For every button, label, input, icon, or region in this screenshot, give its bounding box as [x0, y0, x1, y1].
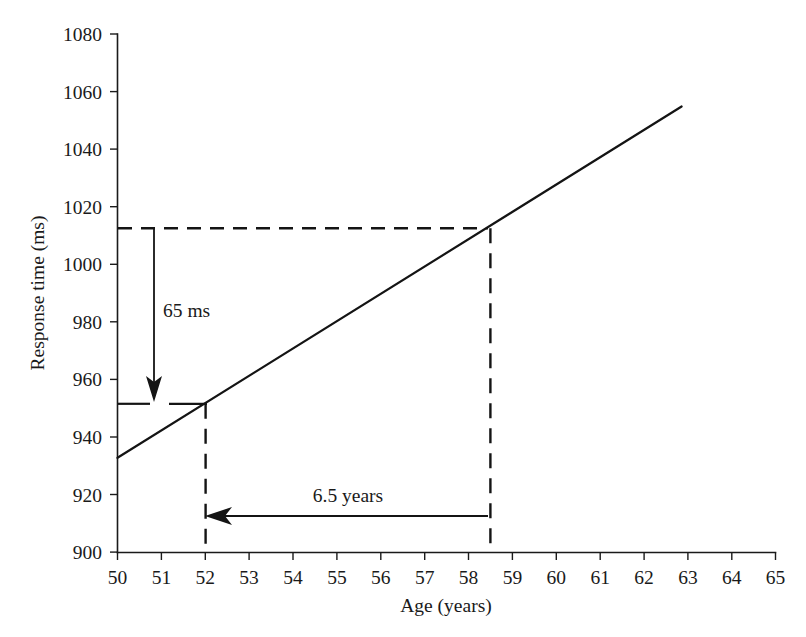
x-tick-label-63: 63: [678, 567, 698, 588]
y-tick-label-920: 920: [73, 485, 102, 506]
x-tick-label-55: 55: [327, 567, 347, 588]
x-axis: 50 51 52 53 54 55 56 57 58 59 60 61 62 6…: [108, 553, 786, 618]
y-tick-label-1020: 1020: [63, 197, 102, 218]
x-axis-title: Age (years): [400, 595, 492, 617]
y-tick-label-940: 940: [73, 427, 102, 448]
annotation-6-5-years-label: 6.5 years: [313, 485, 383, 506]
x-tick-label-65: 65: [766, 567, 786, 588]
y-tick-label-980: 980: [73, 312, 102, 333]
y-tick-label-1080: 1080: [63, 24, 102, 45]
x-tick-label-64: 64: [722, 567, 742, 588]
x-tick-label-59: 59: [503, 567, 523, 588]
x-tick-label-52: 52: [196, 567, 216, 588]
x-axis-ticks: [118, 553, 776, 561]
annotation-65ms-label: 65 ms: [163, 300, 210, 321]
y-tick-label-900: 900: [73, 542, 102, 563]
y-axis-tick-labels: 1080 1060 1040 1020 1000 980 960 940 920…: [63, 24, 102, 563]
x-tick-label-56: 56: [371, 567, 391, 588]
y-axis: 1080 1060 1040 1020 1000 980 960 940 920…: [27, 24, 118, 563]
x-tick-label-62: 62: [634, 567, 654, 588]
x-tick-label-58: 58: [459, 567, 479, 588]
y-tick-label-1040: 1040: [63, 139, 102, 160]
x-tick-label-61: 61: [590, 567, 610, 588]
chart-figure: 1080 1060 1040 1020 1000 980 960 940 920…: [0, 0, 806, 637]
y-axis-title: Response time (ms): [27, 216, 49, 371]
annotation-65ms: 65 ms: [146, 229, 210, 402]
x-tick-label-54: 54: [283, 567, 303, 588]
x-axis-tick-labels: 50 51 52 53 54 55 56 57 58 59 60 61 62 6…: [108, 567, 786, 588]
y-tick-label-1060: 1060: [63, 82, 102, 103]
x-tick-label-60: 60: [547, 567, 567, 588]
regression-line: [118, 107, 682, 458]
x-tick-label-50: 50: [108, 567, 128, 588]
x-tick-label-57: 57: [415, 567, 435, 588]
y-tick-label-1000: 1000: [63, 254, 102, 275]
x-tick-label-51: 51: [152, 567, 172, 588]
y-axis-ticks: [110, 34, 118, 552]
y-tick-label-960: 960: [73, 369, 102, 390]
x-tick-label-53: 53: [239, 567, 259, 588]
annotation-6-5-years: 6.5 years: [205, 485, 488, 525]
chart-plot-area: 1080 1060 1040 1020 1000 980 960 940 920…: [0, 0, 806, 637]
